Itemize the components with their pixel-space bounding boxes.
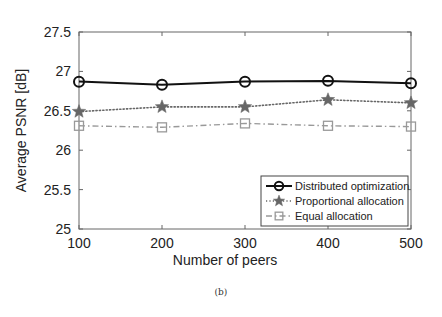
legend-label: Proportional allocation [295, 195, 404, 207]
y-tick-label: 27.5 [44, 24, 71, 40]
y-axis-label: Average PSNR [dB] [13, 69, 29, 192]
y-tick-label: 27 [55, 63, 71, 79]
y-tick-label: 25.5 [44, 182, 71, 198]
legend-label: Distributed optimization [295, 180, 409, 192]
series-circle [74, 76, 416, 90]
x-axis-label: Number of peers [173, 252, 277, 268]
figure-caption: (b) [0, 287, 442, 297]
plot-area: 2525.52626.52727.5100200300400500Number … [13, 24, 423, 268]
x-tick-label: 100 [67, 235, 91, 251]
series-line [79, 81, 411, 85]
star-marker-icon [155, 100, 168, 113]
legend-label: Equal allocation [295, 210, 373, 222]
series-square [75, 119, 416, 132]
x-tick-label: 400 [316, 235, 340, 251]
series-star [72, 93, 417, 117]
x-tick-label: 300 [233, 235, 257, 251]
x-tick-label: 200 [150, 235, 174, 251]
star-marker-icon [238, 100, 251, 113]
legend: Distributed optimizationProportional all… [261, 176, 409, 226]
y-tick-label: 26.5 [44, 103, 71, 119]
star-marker-icon [321, 93, 334, 106]
y-tick-label: 26 [55, 142, 71, 158]
x-tick-label: 500 [399, 235, 423, 251]
chart-canvas: 2525.52626.52727.5100200300400500Number … [0, 0, 442, 317]
series-line [79, 123, 411, 127]
